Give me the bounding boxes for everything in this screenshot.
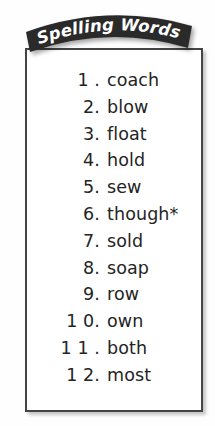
word-list-item: 4.hold xyxy=(27,150,201,177)
word-list-item: 3.float xyxy=(27,124,201,151)
word-text: own xyxy=(100,311,201,331)
word-text: float xyxy=(100,124,201,144)
banner-ribbon-shape: Spelling Words xyxy=(18,8,200,60)
word-list-item: 1 .coach xyxy=(27,70,201,97)
spelling-words-page: 1 .coach2.blow3.float4.hold5.sew6.though… xyxy=(0,0,215,426)
word-number: 9. xyxy=(27,284,100,304)
word-number: 1 . xyxy=(27,70,100,90)
word-number: 8. xyxy=(27,258,100,278)
word-number: 2. xyxy=(27,97,100,117)
word-text: hold xyxy=(100,150,201,170)
banner-header: Spelling Words xyxy=(18,8,200,60)
word-list-item: 1 2.most xyxy=(27,365,201,392)
word-number: 4. xyxy=(27,150,100,170)
word-number: 1 2. xyxy=(27,365,100,385)
word-list-item: 1 0.own xyxy=(27,311,201,338)
word-number: 5. xyxy=(27,177,100,197)
word-text: coach xyxy=(100,70,201,90)
word-number: 7. xyxy=(27,231,100,251)
spelling-word-list: 1 .coach2.blow3.float4.hold5.sew6.though… xyxy=(27,70,201,392)
word-text: blow xyxy=(100,97,201,117)
word-list-item: 6.though* xyxy=(27,204,201,231)
word-number: 1 0. xyxy=(27,311,100,331)
word-text: though* xyxy=(100,204,201,224)
word-number: 6. xyxy=(27,204,100,224)
word-text: most xyxy=(100,365,201,385)
word-text: sew xyxy=(100,177,201,197)
word-text: row xyxy=(100,284,201,304)
word-list-item: 7.sold xyxy=(27,231,201,258)
word-list-item: 1 1 .both xyxy=(27,338,201,365)
word-list-panel: 1 .coach2.blow3.float4.hold5.sew6.though… xyxy=(25,48,203,412)
word-list-item: 5.sew xyxy=(27,177,201,204)
word-list-item: 8.soap xyxy=(27,258,201,285)
word-list-item: 2.blow xyxy=(27,97,201,124)
word-number: 3. xyxy=(27,124,100,144)
word-list-item: 9.row xyxy=(27,284,201,311)
word-text: both xyxy=(100,338,201,358)
word-text: soap xyxy=(100,258,201,278)
word-number: 1 1 . xyxy=(27,338,100,358)
word-text: sold xyxy=(100,231,201,251)
